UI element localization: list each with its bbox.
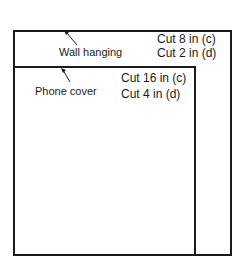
wall-hanging-label: Wall hanging xyxy=(59,46,122,59)
wall-hanging-cut-d: Cut 2 in (d) xyxy=(157,46,216,60)
wall-hanging-cut-c: Cut 8 in (c) xyxy=(157,32,216,46)
phone-cover-cut-d: Cut 4 in (d) xyxy=(121,87,180,101)
phone-cover-label: Phone cover xyxy=(35,85,97,98)
phone-cover-cut-c: Cut 16 in (c) xyxy=(121,71,186,85)
